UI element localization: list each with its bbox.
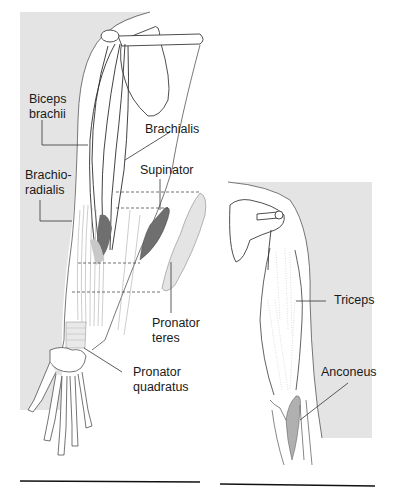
arm-muscle-diagram <box>0 0 395 488</box>
label-pronator-teres: Pronator teres <box>152 316 200 346</box>
triceps-fibers <box>268 248 295 390</box>
right-rule <box>220 484 375 486</box>
pronator-quadratus-muscle <box>66 322 86 348</box>
triceps-muscle <box>260 248 302 395</box>
label-biceps-brachii: Biceps brachii <box>29 92 67 122</box>
left-rule <box>20 481 200 482</box>
label-pronator-quadratus: Pronator quadratus <box>133 365 189 395</box>
label-triceps: Triceps <box>334 293 375 308</box>
label-supinator: Supinator <box>140 163 194 178</box>
anconeus-muscle <box>286 396 301 460</box>
label-brachioradialis: Brachio- radialis <box>25 168 72 198</box>
right-shoulder-bones <box>230 200 285 270</box>
supinator-muscle <box>140 207 169 260</box>
left-shoulder-bones <box>101 27 203 117</box>
label-brachialis: Brachialis <box>145 122 199 137</box>
label-anconeus: Anconeus <box>321 365 377 380</box>
